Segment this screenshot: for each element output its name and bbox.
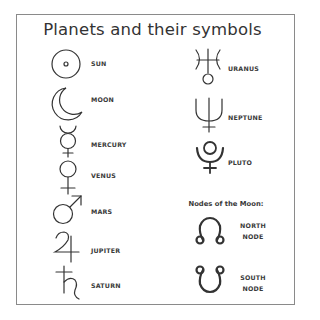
label-pluto: PLUTO: [228, 157, 252, 168]
jupiter-icon: [55, 232, 79, 262]
uranus-icon: [196, 49, 220, 84]
south-node-icon: [197, 267, 224, 293]
label-south-node-line2: NODE: [238, 283, 268, 294]
mars-icon: [54, 196, 82, 224]
label-venus: VENUS: [91, 170, 116, 181]
nodes-heading: Nodes of the Moon:: [176, 200, 276, 208]
label-uranus: URANUS: [228, 63, 259, 74]
label-mercury: MERCURY: [91, 139, 127, 150]
label-north-node: NORTH NODE: [238, 220, 268, 242]
label-neptune: NEPTUNE: [228, 112, 263, 123]
label-jupiter: JUPITER: [91, 245, 120, 256]
label-mars: MARS: [91, 206, 112, 217]
moon-icon: [52, 88, 82, 120]
mercury-icon: [60, 126, 76, 157]
venus-icon: [60, 161, 76, 194]
label-sun: SUN: [91, 58, 107, 69]
north-node-icon: [197, 218, 224, 244]
pluto-icon: [197, 142, 223, 173]
label-saturn: SATURN: [91, 280, 121, 291]
label-north-node-line2: NODE: [238, 231, 268, 242]
label-south-node-line1: SOUTH: [238, 272, 268, 283]
sun-icon: [52, 50, 80, 78]
neptune-icon: [196, 98, 222, 132]
label-north-node-line1: NORTH: [238, 220, 268, 231]
label-moon: MOON: [91, 94, 114, 105]
label-south-node: SOUTH NODE: [238, 272, 268, 294]
saturn-icon: [56, 266, 79, 299]
